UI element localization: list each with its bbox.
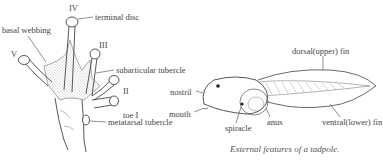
terminal-disc-label: terminal disc [95, 13, 139, 22]
toe-iii-label: III [99, 41, 108, 50]
subarticular-tubercle-label: subarticular tubercle [116, 66, 186, 75]
toe-ii-label: II [123, 87, 129, 96]
basal-webbing-label: basal webbing [2, 26, 51, 35]
spiracle-label: spiracle [225, 124, 251, 133]
tadpole-illustration [0, 0, 383, 161]
anus-label: anus [267, 118, 283, 127]
metatarsal-tubercle-label: metatarsal tubercle [108, 118, 172, 127]
ventral-fin-label: ventral(lower) fin [322, 118, 382, 127]
dorsal-fin-label: dorsal(upper) fin [292, 47, 349, 56]
mouth-label: mouth [169, 110, 191, 119]
toe-v-label: V [11, 50, 17, 59]
toe-iv-label: IV [69, 4, 78, 13]
nostril-label: nostril [170, 88, 192, 97]
figure-caption: External features of a tadpole. [230, 144, 339, 154]
diagram-canvas: IV terminal disc basal webbing III V sub… [0, 0, 383, 161]
